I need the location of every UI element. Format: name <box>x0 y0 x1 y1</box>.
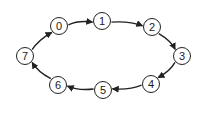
edge-4-to-5 <box>112 85 141 89</box>
node-6: 6 <box>50 77 67 94</box>
edge-1-to-2 <box>111 22 142 26</box>
edge-6-to-7 <box>32 62 51 78</box>
node-label: 0 <box>56 20 62 32</box>
node-label: 1 <box>99 15 105 27</box>
node-label: 2 <box>149 21 155 33</box>
node-label: 7 <box>22 50 28 62</box>
node-label: 3 <box>179 50 185 62</box>
node-4: 4 <box>143 76 160 93</box>
edge-2-to-3 <box>159 34 175 50</box>
node-label: 4 <box>148 78 154 90</box>
node-7: 7 <box>17 48 34 65</box>
node-2: 2 <box>144 19 161 36</box>
cycle-diagram: 01234567 <box>0 0 207 117</box>
node-5: 5 <box>95 82 112 99</box>
edge-7-to-0 <box>32 32 52 49</box>
edge-0-to-1 <box>68 22 92 25</box>
node-label: 5 <box>100 84 106 96</box>
edge-5-to-6 <box>67 86 93 89</box>
edge-3-to-4 <box>158 62 175 77</box>
node-1: 1 <box>94 13 111 30</box>
node-0: 0 <box>51 18 68 35</box>
node-3: 3 <box>174 48 191 65</box>
node-label: 6 <box>55 79 61 91</box>
nodes-group: 01234567 <box>17 13 191 99</box>
